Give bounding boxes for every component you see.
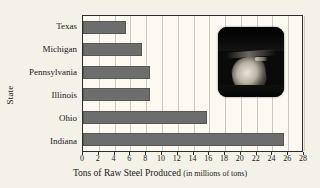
tick-label: 2 xyxy=(96,154,100,163)
bar xyxy=(83,66,150,79)
photo-dark-bottom xyxy=(218,85,284,97)
photo-spark xyxy=(255,57,268,61)
y-axis-title-label: State xyxy=(4,86,14,105)
steel-mill-photo-inset xyxy=(218,27,284,97)
bar-slot xyxy=(83,106,302,129)
category-label: Illinois xyxy=(18,83,80,106)
tick-label: 16 xyxy=(204,154,212,163)
category-label: Pennsylvania xyxy=(18,61,80,84)
bar xyxy=(83,133,284,146)
tick-label: 8 xyxy=(143,154,147,163)
tick-label: 24 xyxy=(267,154,275,163)
bar-chart: State TexasMichiganPennsylvaniaIllinoisO… xyxy=(0,0,320,188)
tick-label: 0 xyxy=(80,154,84,163)
photo-dark-top xyxy=(218,27,284,51)
x-axis-ticks: 0246810121416182022242628 xyxy=(82,152,303,163)
bar xyxy=(83,21,126,34)
tick-label: 12 xyxy=(173,154,181,163)
bar xyxy=(83,88,150,101)
tick-label: 10 xyxy=(157,154,165,163)
category-axis-labels: TexasMichiganPennsylvaniaIllinoisOhioInd… xyxy=(18,15,80,152)
x-axis-title: Tons of Raw Steel Produced (in millions … xyxy=(0,168,320,178)
tick-label: 18 xyxy=(220,154,228,163)
bar-slot xyxy=(83,129,302,152)
y-axis-title: State xyxy=(1,50,17,140)
category-label: Ohio xyxy=(18,106,80,129)
category-label: Michigan xyxy=(18,38,80,61)
category-label: Texas xyxy=(18,15,80,38)
tick-label: 20 xyxy=(236,154,244,163)
x-axis-title-main: Tons of Raw Steel Produced xyxy=(73,168,181,178)
bar xyxy=(83,43,142,56)
tick-label: 4 xyxy=(112,154,116,163)
x-axis-title-units: (in millions of tons) xyxy=(183,169,247,178)
tick-label: 28 xyxy=(299,154,307,163)
gridline xyxy=(304,16,305,151)
tick-label: 22 xyxy=(252,154,260,163)
tick-label: 6 xyxy=(127,154,131,163)
tick-label: 14 xyxy=(189,154,197,163)
bar xyxy=(83,111,207,124)
tick-label: 26 xyxy=(283,154,291,163)
category-label: Indiana xyxy=(18,129,80,152)
